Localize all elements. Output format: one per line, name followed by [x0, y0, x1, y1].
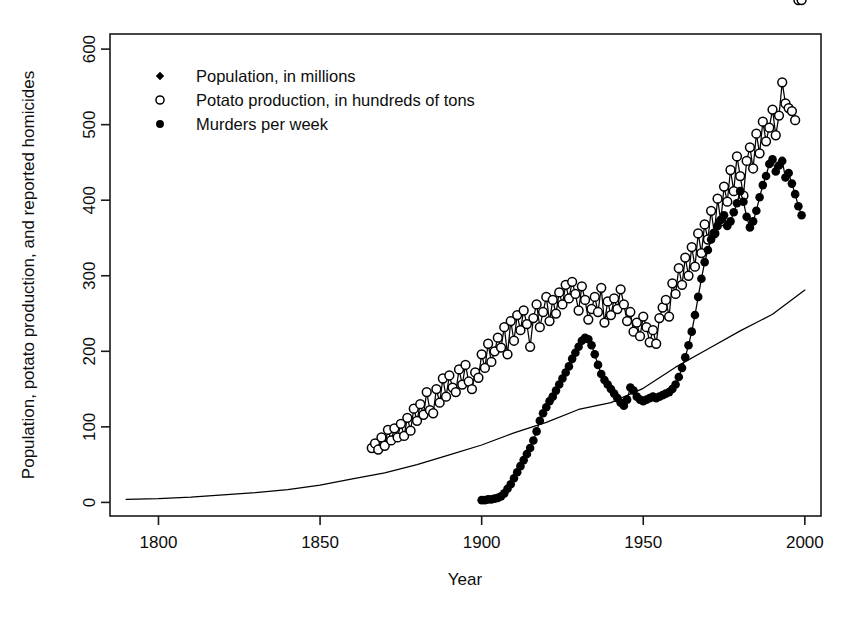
- data-point: [797, 211, 806, 220]
- data-point: [442, 392, 451, 401]
- data-point: [422, 388, 431, 397]
- data-point: [733, 152, 742, 161]
- data-point: [445, 371, 454, 380]
- x-tick-label: 2000: [786, 533, 824, 552]
- data-point: [681, 353, 690, 362]
- data-point: [691, 311, 700, 320]
- data-point: [416, 400, 425, 409]
- data-point: [749, 164, 758, 173]
- data-point: [739, 197, 748, 206]
- data-point: [461, 361, 470, 370]
- data-point: [600, 318, 609, 327]
- data-point: [649, 326, 658, 335]
- data-point: [474, 373, 483, 382]
- data-point: [668, 279, 677, 288]
- chart-page: 18001850190019502000 0100200300400500600…: [0, 0, 865, 624]
- data-point: [590, 293, 599, 302]
- data-point: [788, 107, 797, 116]
- data-point: [694, 229, 703, 238]
- data-point: [749, 217, 758, 226]
- data-point: [791, 116, 800, 125]
- data-point: [726, 166, 735, 175]
- data-point: [729, 208, 738, 217]
- data-point: [487, 357, 496, 366]
- data-point: [752, 129, 761, 138]
- data-point: [671, 380, 680, 389]
- data-point: [752, 206, 761, 215]
- data-point: [797, 0, 806, 4]
- data-point: [581, 296, 590, 305]
- x-axis-title: Year: [448, 570, 483, 589]
- data-point: [594, 308, 603, 317]
- data-point: [451, 388, 460, 397]
- data-point: [545, 317, 554, 326]
- data-point: [539, 308, 548, 317]
- data-point: [623, 317, 632, 326]
- data-point: [568, 277, 577, 286]
- data-point: [655, 314, 664, 323]
- data-point: [762, 137, 771, 146]
- y-axis-title: Population, potato production, and repor…: [19, 71, 38, 479]
- data-point: [694, 293, 703, 302]
- data-point: [403, 413, 412, 422]
- legend-label: Murders per week: [196, 115, 329, 133]
- data-point: [590, 350, 599, 359]
- data-point: [710, 229, 719, 238]
- data-point: [674, 264, 683, 273]
- x-tick-label: 1850: [301, 533, 339, 552]
- data-point: [671, 289, 680, 298]
- data-point: [610, 294, 619, 303]
- data-point: [681, 253, 690, 262]
- data-point: [619, 300, 628, 309]
- data-point: [493, 333, 502, 342]
- data-point: [526, 342, 535, 351]
- data-point: [784, 169, 793, 178]
- x-tick-label: 1800: [140, 533, 178, 552]
- data-point: [468, 385, 477, 394]
- y-tick-label: 0: [80, 498, 99, 507]
- legend-label: Population, in millions: [196, 67, 356, 85]
- data-point: [584, 315, 593, 324]
- data-point: [687, 327, 696, 336]
- data-point: [477, 350, 486, 359]
- data-point: [788, 179, 797, 188]
- data-point: [555, 288, 564, 297]
- data-point: [697, 274, 706, 283]
- data-point: [762, 172, 771, 181]
- data-point: [755, 193, 764, 202]
- data-point: [765, 123, 774, 132]
- data-point: [594, 361, 603, 370]
- data-point: [574, 306, 583, 315]
- data-point: [406, 426, 415, 435]
- data-point: [510, 336, 519, 345]
- data-point: [532, 427, 541, 436]
- x-tick-label: 1950: [624, 533, 662, 552]
- data-point: [577, 282, 586, 291]
- data-point: [755, 149, 764, 158]
- data-point: [687, 243, 696, 252]
- data-point: [535, 323, 544, 332]
- data-point: [565, 362, 574, 371]
- data-point: [742, 157, 751, 166]
- data-point: [652, 339, 661, 348]
- y-tick-label: 500: [80, 110, 99, 138]
- x-tick-label: 1900: [463, 533, 501, 552]
- data-point: [623, 395, 632, 404]
- data-point: [626, 308, 635, 317]
- line-chart: 18001850190019502000 0100200300400500600…: [0, 0, 865, 624]
- data-point: [771, 131, 780, 140]
- data-point: [616, 285, 625, 294]
- legend-marker-open-circle: [156, 96, 164, 104]
- data-point: [720, 182, 729, 191]
- data-point: [707, 206, 716, 215]
- data-point: [778, 78, 787, 87]
- data-point: [484, 339, 493, 348]
- data-point: [775, 111, 784, 120]
- data-point: [778, 157, 787, 166]
- data-point: [639, 312, 648, 321]
- data-point: [661, 296, 670, 305]
- data-point: [519, 306, 528, 315]
- data-point: [691, 262, 700, 271]
- data-point: [678, 364, 687, 373]
- data-point: [736, 187, 745, 196]
